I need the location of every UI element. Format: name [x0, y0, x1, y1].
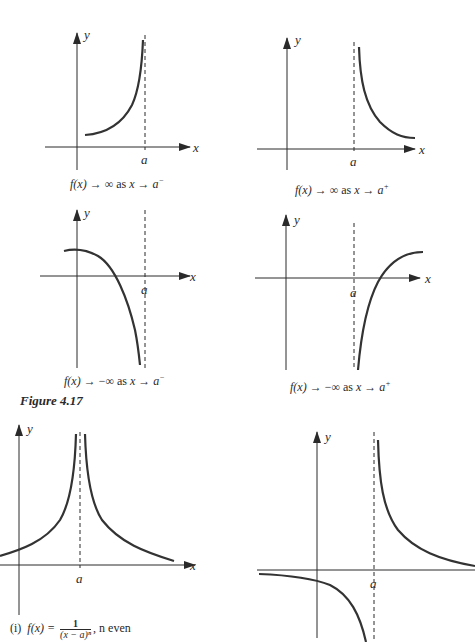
curve-right-branch — [85, 434, 174, 561]
caption-suffix: , n even — [93, 621, 131, 635]
curve — [359, 47, 415, 138]
caption-arrow2: → — [363, 183, 375, 197]
panel-6-graph — [257, 432, 475, 642]
caption-side: + — [384, 182, 389, 191]
caption-var: x — [130, 374, 135, 388]
caption-as: as — [116, 177, 126, 191]
caption-var: x — [356, 380, 361, 394]
panel-3-graph — [40, 210, 190, 368]
caption-lhs: f(x) — [64, 374, 81, 388]
panel-3-caption: f(x) → −∞ as x → a− — [64, 374, 165, 387]
curve — [85, 40, 143, 135]
caption-side: − — [159, 176, 164, 185]
caption-limit: −∞ — [325, 380, 340, 394]
y-axis-label: y — [84, 206, 90, 219]
caption-lhs: f(x) — [70, 177, 87, 191]
figure-label: Figure 4.17 — [20, 393, 83, 409]
asymptote-label: a — [350, 155, 357, 168]
y-axis-label: y — [84, 28, 90, 41]
x-axis-label: x — [190, 270, 196, 283]
caption-limit: ∞ — [330, 183, 339, 197]
curve-left-branch — [0, 434, 76, 556]
panel-5-graph — [0, 425, 195, 615]
panel-4-graph — [255, 215, 423, 370]
caption-arrow2: → — [138, 177, 150, 191]
asymptote-label: a — [141, 283, 148, 296]
x-axis-label: x — [419, 143, 425, 156]
caption-arrow: → — [315, 183, 327, 197]
caption-lhs: f(x) — [295, 183, 312, 197]
x-axis-label: x — [425, 272, 431, 285]
caption-arrow2: → — [138, 374, 150, 388]
fraction-denominator: (x − a)ⁿ — [60, 630, 91, 640]
caption-limit: ∞ — [105, 177, 114, 191]
figure-4-17: y x a f(x) → ∞ as x → a− y x a f(x) → ∞ … — [0, 0, 475, 642]
y-axis-label: y — [295, 33, 301, 46]
caption-as: as — [341, 183, 351, 197]
panel-1-caption: f(x) → ∞ as x → a− — [70, 177, 164, 190]
caption-lhs: f(x) — [290, 380, 307, 394]
x-axis-label: x — [193, 141, 199, 154]
panel-5-caption: (i) f(x) = 1 (x − a)ⁿ , n even — [10, 619, 131, 640]
caption-lhs: f(x) = — [27, 621, 55, 635]
asymptote-label: a — [350, 286, 357, 299]
caption-as: as — [117, 374, 127, 388]
caption-arrow: → — [84, 374, 96, 388]
panel-2-graph — [257, 38, 415, 170]
caption-index: (i) — [10, 621, 21, 635]
asymptote-label: a — [76, 572, 83, 585]
caption-arrow: → — [90, 177, 102, 191]
asymptote-label: a — [370, 577, 377, 590]
curve — [64, 250, 140, 365]
y-axis-label: y — [27, 422, 33, 435]
curve-right-branch — [378, 440, 475, 566]
panel-1-graph — [45, 33, 190, 170]
caption-arrow: → — [310, 380, 322, 394]
caption-var: x — [354, 183, 359, 197]
panel-2-caption: f(x) → ∞ as x → a+ — [295, 183, 389, 196]
fraction: 1 (x − a)ⁿ — [60, 619, 91, 640]
asymptote-label: a — [141, 153, 148, 166]
caption-limit: −∞ — [99, 374, 114, 388]
curve-left-branch — [259, 574, 366, 642]
y-axis-label: y — [294, 213, 300, 226]
caption-side: − — [159, 373, 164, 382]
curve — [358, 252, 423, 370]
caption-arrow2: → — [364, 380, 376, 394]
caption-side: + — [385, 379, 390, 388]
caption-as: as — [343, 380, 353, 394]
panel-4-caption: f(x) → −∞ as x → a+ — [290, 380, 391, 393]
caption-var: x — [129, 177, 134, 191]
x-axis-label: x — [190, 559, 196, 572]
y-axis-label: y — [325, 430, 331, 443]
